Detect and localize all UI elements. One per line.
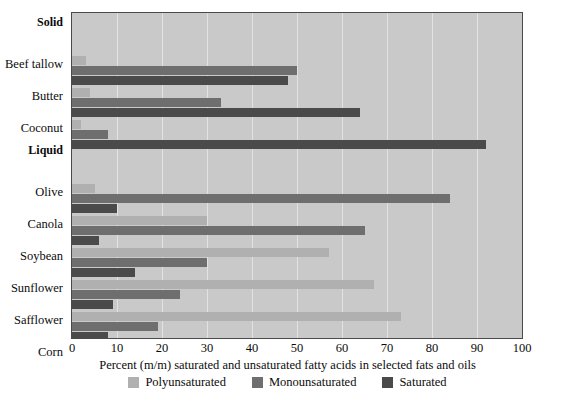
- legend-label-poly: Polyunsaturated: [145, 375, 226, 390]
- x-tick-label-100: 100: [513, 341, 532, 356]
- y-axis-label-coconut: Coconut: [21, 122, 63, 135]
- bar-coconut-poly: [72, 120, 81, 129]
- y-axis-label-sunflower: Sunflower: [11, 282, 63, 295]
- bar-sunflower-poly: [72, 280, 374, 289]
- bar-olive-poly: [72, 184, 95, 193]
- bar-beef-tallow-mono: [72, 66, 297, 75]
- fatty-acid-bar-chart: SolidBeef tallowButterCoconutLiquidOlive…: [0, 0, 575, 395]
- y-axis-label-soybean: Soybean: [20, 250, 63, 263]
- bar-sunflower-mono: [72, 290, 180, 299]
- bar-olive-sat: [72, 204, 117, 213]
- bar-group-beef-tallow: [72, 55, 522, 87]
- x-tick-label-50: 50: [291, 341, 304, 356]
- bar-sunflower-sat: [72, 300, 113, 309]
- legend-item-mono: Monounsaturated: [252, 375, 356, 390]
- bar-soybean-sat: [72, 268, 135, 277]
- x-axis-title: Percent (m/m) saturated and unsaturated …: [0, 358, 575, 373]
- x-tick-label-0: 0: [69, 341, 75, 356]
- bar-group-canola: [72, 215, 522, 247]
- x-tick-label-20: 20: [156, 341, 169, 356]
- x-tick-label-60: 60: [336, 341, 349, 356]
- y-axis-label-canola: Canola: [28, 218, 63, 231]
- bar-group-safflower: [72, 311, 522, 339]
- legend-label-mono: Monounsaturated: [269, 375, 356, 390]
- bar-olive-mono: [72, 194, 450, 203]
- y-axis-label-butter: Butter: [32, 90, 63, 103]
- bar-group-soybean: [72, 247, 522, 279]
- bar-butter-sat: [72, 108, 360, 117]
- chart-legend: PolyunsaturatedMonounsaturatedSaturated: [0, 375, 575, 390]
- x-tick-label-30: 30: [201, 341, 214, 356]
- bar-group-butter: [72, 87, 522, 119]
- bar-group-sunflower: [72, 279, 522, 311]
- gridline-100: [522, 13, 523, 338]
- bar-group-coconut: [72, 119, 522, 151]
- bar-canola-poly: [72, 216, 207, 225]
- legend-item-poly: Polyunsaturated: [128, 375, 226, 390]
- x-tick-label-10: 10: [111, 341, 124, 356]
- y-axis-label-olive: Olive: [35, 186, 63, 199]
- y-axis-label-safflower: Safflower: [14, 314, 63, 327]
- bar-beef-tallow-poly: [72, 56, 86, 65]
- bar-safflower-mono: [72, 322, 158, 331]
- bar-coconut-mono: [72, 130, 108, 139]
- bar-safflower-sat: [72, 332, 108, 339]
- x-tick-label-40: 40: [246, 341, 259, 356]
- bar-coconut-sat: [72, 140, 486, 149]
- bar-safflower-poly: [72, 312, 401, 321]
- bar-soybean-mono: [72, 258, 207, 267]
- group-header-solid: Solid: [37, 16, 63, 29]
- bar-canola-sat: [72, 236, 99, 245]
- y-axis-labels: SolidBeef tallowButterCoconutLiquidOlive…: [0, 12, 67, 339]
- legend-swatch-poly-icon: [128, 377, 139, 388]
- bar-canola-mono: [72, 226, 365, 235]
- bar-butter-poly: [72, 88, 90, 97]
- bar-beef-tallow-sat: [72, 76, 288, 85]
- legend-item-sat: Saturated: [382, 375, 446, 390]
- plot-area: [71, 12, 523, 339]
- x-tick-label-80: 80: [426, 341, 439, 356]
- group-header-liquid: Liquid: [28, 144, 63, 157]
- bar-soybean-poly: [72, 248, 329, 257]
- y-axis-label-beef-tallow: Beef tallow: [5, 58, 63, 71]
- legend-label-sat: Saturated: [399, 375, 446, 390]
- legend-swatch-sat-icon: [382, 377, 393, 388]
- x-tick-label-90: 90: [471, 341, 484, 356]
- x-tick-label-70: 70: [381, 341, 394, 356]
- bar-butter-mono: [72, 98, 221, 107]
- bar-group-olive: [72, 183, 522, 215]
- x-axis-ticks: 0102030405060708090100: [0, 341, 575, 357]
- legend-swatch-mono-icon: [252, 377, 263, 388]
